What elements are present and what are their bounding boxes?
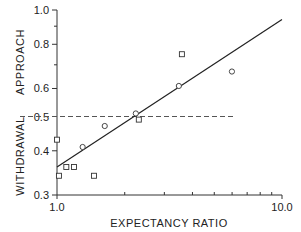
y-tick-label: 0.8 bbox=[34, 38, 49, 50]
y-tick-label: 1.0 bbox=[34, 4, 49, 16]
y-axis-title-withdrawal: WITHDRAWAL bbox=[14, 116, 26, 195]
y-tick-label: 0.6 bbox=[34, 82, 49, 94]
data-point-square bbox=[91, 173, 96, 178]
data-point-square bbox=[71, 164, 76, 169]
data-marks bbox=[55, 52, 235, 179]
data-point-square bbox=[179, 52, 184, 57]
data-point-square bbox=[64, 164, 69, 169]
data-point-square bbox=[136, 117, 141, 122]
y-tick-label: 0.3 bbox=[34, 189, 49, 201]
data-point-square bbox=[55, 137, 60, 142]
data-point-circle bbox=[229, 69, 234, 74]
x-tick-label: 10.0 bbox=[271, 201, 292, 213]
data-point-square bbox=[56, 173, 61, 178]
data-point-circle bbox=[133, 111, 138, 116]
reference-lines bbox=[20, 20, 282, 167]
x-axis-title: EXPECTANCY RATIO bbox=[110, 217, 227, 229]
y-ticks: 0.30.40.50.60.81.0 bbox=[34, 4, 57, 201]
y-tick-label: 0.4 bbox=[34, 145, 49, 157]
y-axis-title-approach: APPROACH bbox=[14, 29, 26, 95]
axes bbox=[57, 10, 282, 195]
data-point-circle bbox=[176, 83, 181, 88]
fit-line bbox=[57, 20, 282, 167]
data-point-circle bbox=[102, 123, 107, 128]
data-point-circle bbox=[80, 144, 85, 149]
scatter-chart: 0.30.40.50.60.81.0 1.010.0 EXPECTANCY RA… bbox=[0, 0, 301, 232]
x-tick-label: 1.0 bbox=[49, 201, 64, 213]
